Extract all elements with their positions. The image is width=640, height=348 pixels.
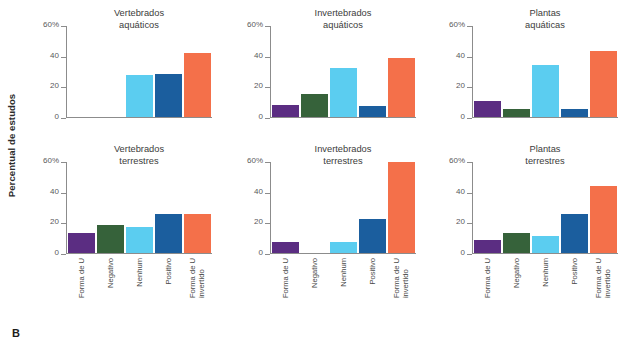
bar-positivo xyxy=(561,214,589,253)
panel-row-terrestrial: Vertebradosterrestres0204060%Forma de UN… xyxy=(22,142,636,272)
x-tick-label-line: Forma de U xyxy=(281,258,290,298)
bar-slot xyxy=(503,162,531,253)
bar-slot xyxy=(301,26,329,117)
y-tick-mark xyxy=(265,118,270,119)
x-tick-slot: Positivo xyxy=(359,256,387,272)
subplot-title-line: Vertebrados xyxy=(62,8,216,20)
y-tick-mark xyxy=(61,26,66,27)
bar-slot xyxy=(184,162,212,253)
x-tick-slot: Nenhum xyxy=(532,256,560,272)
x-tick-slot: Nenhum xyxy=(330,256,358,272)
x-tick-slot: Negativo xyxy=(503,256,531,272)
x-tick-label-line: Forma de U xyxy=(483,258,492,298)
bar-nenhum xyxy=(126,227,154,253)
subplot-title-line: Vertebrados xyxy=(62,144,216,156)
subplot-vertebrados-terrestres: Vertebradosterrestres0204060%Forma de UN… xyxy=(22,142,218,272)
bar-slot xyxy=(184,26,212,117)
x-tick-slot: Forma de U xyxy=(68,256,96,272)
y-tick-label: 60% xyxy=(449,20,465,29)
bar-forma-de-u-invertido xyxy=(184,214,212,253)
bar-slot xyxy=(503,26,531,117)
bar-forma-de-u-invertido xyxy=(388,162,416,253)
x-tick-label-line: Forma de U xyxy=(77,258,86,298)
y-tick-label: 60% xyxy=(43,20,59,29)
y-tick-label: 40 xyxy=(50,51,59,60)
subplot-title-line: Plantas xyxy=(468,144,622,156)
bar-slot xyxy=(97,162,125,253)
plot-area: 0204060% xyxy=(472,162,618,254)
y-tick-mark xyxy=(61,57,66,58)
x-tick-label-line: invertido xyxy=(604,258,613,298)
y-tick-mark xyxy=(467,26,472,27)
x-tick-label: Forma de Uinvertido xyxy=(394,258,411,298)
bar-slot xyxy=(561,162,589,253)
bar-slot xyxy=(97,26,125,117)
bar-positivo xyxy=(155,74,183,117)
plot-area: 0204060% xyxy=(66,162,212,254)
bar-forma-de-u-invertido xyxy=(184,53,212,117)
y-tick-label: 40 xyxy=(50,187,59,196)
y-tick-mark xyxy=(265,26,270,27)
bar-slot xyxy=(590,26,618,117)
y-tick-label: 0 xyxy=(55,248,59,257)
bar-slot xyxy=(532,26,560,117)
y-tick-label: 20 xyxy=(50,217,59,226)
x-tick-label: Forma de U xyxy=(281,258,290,298)
bar-slot xyxy=(68,26,96,117)
x-tick-label-line: Negativo xyxy=(310,258,319,288)
bar-positivo xyxy=(561,109,589,117)
bar-slot xyxy=(155,162,183,253)
bar-negativo xyxy=(503,109,531,117)
x-tick-slot: Forma de U xyxy=(474,256,502,272)
y-tick-mark xyxy=(265,87,270,88)
x-tick-label: Nenhum xyxy=(136,258,145,287)
bar-negativo xyxy=(301,94,329,117)
bar-nenhum xyxy=(126,75,154,117)
subplot-title-line: Invertebrados xyxy=(266,144,420,156)
panel-grid: Vertebradosaquáticos0204060%Invertebrado… xyxy=(22,6,636,278)
bar-forma-de-u xyxy=(272,242,300,253)
x-tick-label-line: Positivo xyxy=(571,258,580,285)
y-tick-label: 60% xyxy=(43,156,59,165)
x-tick-slot: Positivo xyxy=(561,256,589,272)
x-tick-label-line: Nenhum xyxy=(542,258,551,287)
y-tick-label: 0 xyxy=(259,112,263,121)
bar-forma-de-u-invertido xyxy=(388,58,416,117)
bar-slot xyxy=(561,26,589,117)
y-tick-mark xyxy=(467,193,472,194)
bar-slot xyxy=(68,162,96,253)
x-tick-slot: Forma de Uinvertido xyxy=(184,256,212,272)
bar-negativo xyxy=(97,225,125,253)
panel-letter-label: B xyxy=(12,327,20,339)
y-tick-mark xyxy=(467,87,472,88)
x-axis-line xyxy=(66,253,212,254)
y-tick-mark xyxy=(467,223,472,224)
x-tick-label-line: Negativo xyxy=(512,258,521,288)
y-tick-label: 0 xyxy=(461,248,465,257)
x-tick-label-line: Nenhum xyxy=(340,258,349,287)
plot-area: 0204060% xyxy=(270,162,416,254)
y-tick-mark xyxy=(61,162,66,163)
bar-slot xyxy=(330,26,358,117)
y-tick-mark xyxy=(265,162,270,163)
y-tick-label: 20 xyxy=(254,81,263,90)
y-tick-label: 0 xyxy=(259,248,263,257)
y-tick-label: 0 xyxy=(55,112,59,121)
x-tick-label-line: invertido xyxy=(402,258,411,298)
y-tick-mark xyxy=(467,162,472,163)
bar-group xyxy=(67,26,212,117)
bar-slot xyxy=(590,162,618,253)
y-tick-mark xyxy=(467,118,472,119)
x-tick-label: Forma de U xyxy=(77,258,86,298)
bar-forma-de-u xyxy=(474,240,502,253)
y-tick-label: 20 xyxy=(50,81,59,90)
x-tick-label-line: invertido xyxy=(198,258,207,298)
x-tick-slot: Forma de Uinvertido xyxy=(590,256,618,272)
panel-row-aquatic: Vertebradosaquáticos0204060%Invertebrado… xyxy=(22,6,636,136)
subplot-invertebrados-aqu-ticos: Invertebradosaquáticos0204060% xyxy=(226,6,422,136)
x-tick-label: Nenhum xyxy=(340,258,349,287)
y-tick-label: 40 xyxy=(456,51,465,60)
x-tick-labels: Forma de UNegativoNenhumPositivoForma de… xyxy=(473,256,619,272)
bar-slot xyxy=(126,162,154,253)
x-tick-label: Positivo xyxy=(571,258,580,285)
